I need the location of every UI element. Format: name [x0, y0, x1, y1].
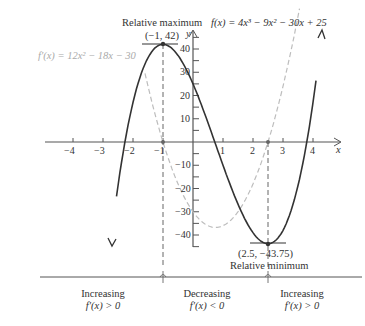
relative-min-label: Relative minimum: [230, 261, 308, 272]
derivative-curve: [145, 9, 300, 228]
x-tick-label: −3: [94, 146, 105, 156]
y-tick-label: 40: [180, 44, 190, 54]
y-axis-label: y: [186, 29, 190, 39]
x-crit-2: [266, 140, 270, 144]
interval-title: Increasing: [267, 288, 337, 300]
function-curve: [117, 44, 317, 243]
x-crit-1: [161, 140, 165, 144]
interval-title: Increasing: [68, 288, 138, 300]
y-tick-label: −10: [175, 160, 191, 170]
function-equation: f(x) = 4x³ − 9x² − 30x + 25: [211, 18, 327, 29]
y-tick-label: 30: [180, 67, 190, 77]
interval-increasing-left: Increasing f′(x) > 0: [68, 288, 138, 312]
x-axis-label: x: [336, 145, 341, 156]
interval-increasing-right: Increasing f′(x) > 0: [267, 288, 337, 312]
interval-condition: f′(x) > 0: [68, 300, 138, 312]
interval-decreasing: Decreasing f′(x) < 0: [172, 288, 242, 312]
y-tick-label: −40: [175, 230, 191, 240]
max-point: [161, 42, 165, 46]
relative-min-point-label: (2.5, −43.75): [238, 249, 293, 260]
x-tick-label: 3: [280, 146, 285, 156]
min-point: [266, 242, 270, 246]
y-tick-label: 10: [180, 114, 190, 124]
relative-max-label: Relative maximum: [122, 18, 202, 29]
f-arrow-bottom-icon: [108, 238, 116, 246]
y-tick-label: −20: [175, 184, 191, 194]
interval-condition: f′(x) < 0: [172, 300, 242, 312]
f-arrow-top-icon: [318, 30, 325, 39]
x-tick-label: 4: [310, 146, 315, 156]
y-tick-label: 20: [180, 91, 190, 101]
x-tick-label: 2: [250, 146, 255, 156]
x-tick-label: 1: [220, 146, 225, 156]
derivative-equation: f′(x) = 12x² − 18x − 30: [38, 51, 136, 62]
interval-title: Decreasing: [172, 288, 242, 300]
x-tick-label: −2: [124, 146, 135, 156]
x-tick-label: −1: [154, 146, 165, 156]
relative-max-point-label: (−1, 42): [145, 31, 179, 42]
x-tick-label: −4: [64, 146, 75, 156]
interval-condition: f′(x) > 0: [267, 300, 337, 312]
y-tick-label: −30: [175, 207, 191, 217]
